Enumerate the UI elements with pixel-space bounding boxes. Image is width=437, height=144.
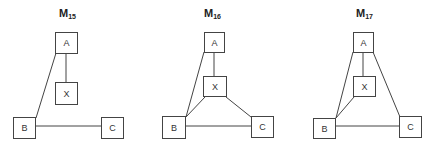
node-m15-x: X bbox=[55, 82, 78, 105]
diagram-title-m15: M15 bbox=[59, 7, 76, 20]
title-main: M bbox=[204, 7, 213, 19]
edge-m17-a-c bbox=[373, 52, 400, 117]
node-m17-b: B bbox=[313, 118, 336, 139]
title-main: M bbox=[59, 7, 68, 19]
node-m15-a: A bbox=[55, 32, 78, 54]
node-m16-x: X bbox=[203, 76, 227, 97]
node-m17-a: A bbox=[353, 32, 374, 53]
edge-m16-x-c bbox=[226, 97, 251, 117]
node-m15-c: C bbox=[101, 117, 124, 139]
edge-m15-a-b bbox=[36, 53, 56, 118]
edges-layer bbox=[0, 0, 437, 144]
node-m17-x: X bbox=[353, 76, 376, 97]
title-main: M bbox=[356, 7, 365, 19]
title-subscript: 17 bbox=[365, 13, 373, 20]
diagram-title-m17: M17 bbox=[356, 7, 373, 20]
title-subscript: 16 bbox=[213, 13, 221, 20]
node-m15-b: B bbox=[13, 117, 36, 139]
node-m16-c: C bbox=[251, 116, 274, 138]
node-m17-c: C bbox=[399, 116, 422, 138]
node-m16-a: A bbox=[204, 32, 225, 53]
node-m16-b: B bbox=[162, 116, 186, 139]
title-subscript: 15 bbox=[68, 13, 76, 20]
diagram-title-m16: M16 bbox=[204, 7, 221, 20]
